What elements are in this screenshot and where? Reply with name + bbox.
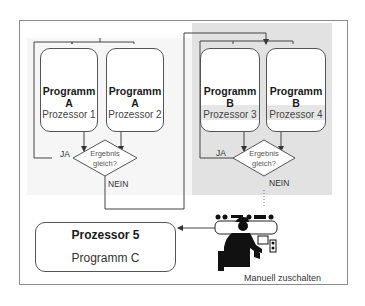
- decision-line1: Ergebnis: [85, 149, 125, 159]
- processor-1-box: Programm A Prozessor 1: [40, 48, 98, 132]
- left-yes-label: JA: [60, 149, 70, 159]
- left-decision-text: Ergebnis gleich?: [85, 149, 125, 169]
- right-decision-text: Ergebnis gleich?: [244, 149, 284, 169]
- decision-line2: gleich?: [85, 159, 125, 169]
- processor-2-box: Programm A Prozessor 2: [106, 48, 164, 132]
- processor-label: Prozessor 4: [267, 109, 325, 120]
- program-c-label: Programm C: [36, 251, 175, 265]
- processor-5-title: Prozessor 5: [36, 228, 175, 242]
- decision-line2: gleich?: [244, 159, 284, 169]
- processor-4-box: Programm B Prozessor 4: [266, 48, 326, 132]
- right-yes-label: JA: [216, 148, 226, 158]
- processor-3-box: Programm B Prozessor 3: [200, 48, 260, 132]
- program-label: Programm B: [201, 85, 259, 109]
- right-no-label: NEIN: [269, 178, 289, 188]
- operator-caption: Manuell zuschalten: [244, 273, 321, 283]
- decision-line1: Ergebnis: [244, 149, 284, 159]
- operator-at-console-icon: [214, 213, 294, 271]
- program-label: Programm A: [41, 85, 97, 109]
- program-label: Programm A: [107, 85, 163, 109]
- processor-5-box: Prozessor 5 Programm C: [35, 222, 176, 272]
- left-no-label: NEIN: [108, 179, 128, 189]
- processor-label: Prozessor 1: [41, 109, 97, 120]
- processor-label: Prozessor 3: [201, 109, 259, 120]
- program-label: Programm B: [267, 85, 325, 109]
- processor-label: Prozessor 2: [107, 109, 163, 120]
- redundancy-diagram: Programm A Prozessor 1 Programm A Prozes…: [0, 0, 365, 306]
